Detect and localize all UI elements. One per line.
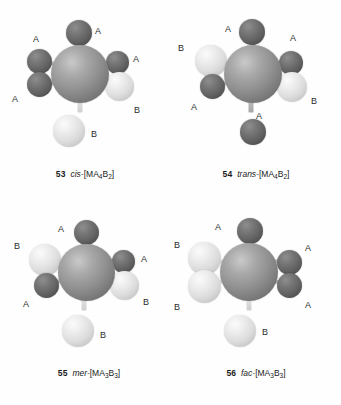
ligand-atom-upper-right (106, 51, 129, 74)
ligand-atom-upper-right (112, 250, 135, 273)
caption-subscript-a: 4 (274, 173, 278, 180)
ligand-atom-lower-left (34, 273, 59, 298)
caption-subscript-a: 4 (99, 173, 103, 180)
structure-panel-53: A A A A B B 53 cis-[MA4B2] (0, 2, 170, 202)
caption-subscript-b: 2 (283, 173, 287, 180)
caption-subscript-a: 3 (270, 372, 274, 379)
vertex-label-upper-left: B (14, 242, 20, 251)
ligand-atom-upper-left (195, 45, 227, 77)
ligand-atom-top (66, 20, 92, 46)
vertex-label-lower-right: B (134, 106, 140, 115)
vertex-label-upper-right: A (141, 255, 147, 264)
vertex-label-lower-right: A (305, 301, 311, 310)
caption-prefix: cis- (70, 169, 83, 179)
ligand-atom-bottom (240, 119, 266, 145)
vertex-label-upper-left: B (174, 241, 180, 250)
structure-caption-55: 55 mer-[MA3B3] (4, 369, 174, 378)
vertex-label-bottom: A (256, 112, 262, 121)
caption-subscript-b: 3 (114, 372, 118, 379)
ligand-atom-upper-left (27, 49, 52, 74)
ligand-atom-top (239, 19, 265, 45)
caption-number: 53 (56, 169, 66, 179)
vertex-label-lower-left: A (23, 300, 29, 309)
caption-formula-open: [MA (259, 169, 274, 179)
ligand-atom-lower-left (27, 72, 52, 97)
ligand-atom-lower-right (105, 72, 134, 101)
caption-formula-close: ] (112, 169, 114, 179)
molecule-model-55: A B A A B B (4, 200, 174, 365)
molecule-model-56: A B B A A B (171, 200, 341, 365)
central-metal-atom (220, 243, 278, 301)
ligand-atom-bottom (62, 315, 94, 347)
ligand-atom-upper-right (277, 250, 302, 275)
caption-subscript-b: 3 (280, 372, 284, 379)
caption-prefix: trans- (237, 169, 259, 179)
ligand-atom-bottom (53, 115, 85, 147)
caption-subscript-a: 3 (105, 372, 109, 379)
central-metal-atom (51, 45, 109, 103)
ligand-atom-lower-right (277, 273, 302, 298)
caption-formula-close: ] (283, 368, 285, 378)
vertex-label-lower-right: B (311, 97, 317, 106)
caption-formula-mid: B (274, 368, 280, 378)
central-metal-atom (224, 45, 282, 103)
structure-caption-54: 54 trans-[MA4B2] (171, 170, 341, 179)
vertex-label-top: A (95, 27, 101, 36)
ligand-atom-top (237, 218, 263, 244)
vertex-label-bottom: B (262, 328, 268, 337)
structure-panel-55: A B A A B B 55 mer-[MA3B3] (4, 200, 174, 400)
structure-panel-56: A B B A A B 56 fac-[MA3B3] (171, 200, 341, 400)
figure-sheet: A A A A B B 53 cis-[MA4B2] (0, 0, 341, 405)
ligand-atom-upper-left (29, 244, 61, 276)
caption-number: 55 (58, 368, 68, 378)
caption-formula-close: ] (118, 368, 120, 378)
structure-caption-56: 56 fac-[MA3B3] (171, 369, 341, 378)
caption-prefix: fac- (241, 368, 255, 378)
structure-panel-54: A B A A B A 54 trans-[MA4B2] (171, 2, 341, 202)
vertex-label-bottom: B (100, 331, 106, 340)
structure-caption-53: 53 cis-[MA4B2] (0, 170, 170, 179)
vertex-label-lower-right: B (143, 298, 149, 307)
molecule-model-54: A B A A B A (171, 2, 341, 167)
vertex-label-top: A (225, 25, 231, 34)
vertex-label-lower-left: A (12, 95, 18, 104)
caption-number: 56 (226, 368, 236, 378)
caption-formula-open: [MA (90, 368, 105, 378)
caption-subscript-b: 2 (108, 173, 112, 180)
vertex-label-bottom: B (91, 130, 97, 139)
vertex-label-lower-left: B (174, 303, 180, 312)
vertex-label-upper-left: B (178, 44, 184, 53)
ligand-atom-lower-left (188, 270, 221, 303)
caption-formula-open: [MA (84, 169, 99, 179)
vertex-label-upper-right: A (290, 34, 296, 43)
vertex-label-top: A (215, 223, 221, 232)
ligand-atom-lower-left (200, 74, 225, 99)
vertex-label-upper-left: A (33, 35, 39, 44)
caption-formula-close: ] (287, 169, 289, 179)
vertex-label-top: A (58, 225, 64, 234)
caption-formula-open: [MA (255, 368, 270, 378)
vertex-label-lower-left: A (191, 103, 197, 112)
ligand-atom-bottom (224, 315, 256, 347)
ligand-atom-top (74, 220, 99, 245)
central-metal-atom (58, 244, 115, 301)
caption-number: 54 (223, 169, 233, 179)
vertex-label-upper-right: A (305, 244, 311, 253)
molecule-model-53: A A A A B B (0, 2, 170, 167)
vertex-label-upper-right: A (133, 55, 139, 64)
caption-prefix: mer- (72, 368, 89, 378)
